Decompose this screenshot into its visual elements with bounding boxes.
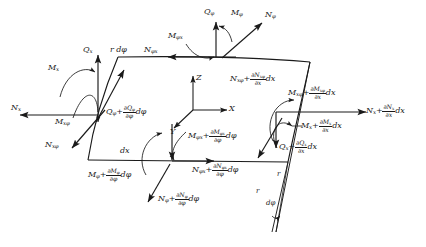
label-axis-y: Y [170,128,175,136]
label-n-phi-incremented: Nφ+∂Nφ∂φdφ [158,192,199,206]
label-q-x: Qx [83,46,92,55]
label-radius-2: r [277,171,280,178]
label-m-x-incremented: Mx+∂Mx∂xdx [301,119,342,133]
moment-arc-m-phi-inc [142,133,162,175]
axis-y [174,110,193,128]
label-m-phi: Mφ [231,9,243,18]
moment-arc-m-phix-inc [173,132,186,160]
coordinate-axes [174,76,227,128]
label-m-phix-incremented: Mφx+∂Mφx∂φdφ [188,129,236,143]
left-face-resultants [20,55,124,148]
label-n-xphi-incremented: Nxφ+∂Nxφ∂xdx [230,72,275,86]
label-n-x-incremented: Nx+∂Nx∂xdx [366,104,405,118]
label-axis-x: X [229,105,235,113]
label-m-phi-incremented: Mφ+∂Mφ∂φdφ [88,168,131,182]
label-axial-length: dx [120,147,129,155]
label-q-x-incremented: Qx+∂Qx∂xdx [279,140,317,154]
label-subtended-angle: dφ [266,200,275,207]
moment-arc-m-phi [219,26,232,42]
label-n-xphi: Nxφ [45,141,59,150]
label-q-phi: Qφ [204,8,214,17]
moment-arc-m-x [60,70,95,97]
label-n-phix: Nφx [144,46,158,55]
label-n-phix-incremented: Nφx+∂Nφx∂φdφ [192,163,238,177]
label-radius-1: r [256,188,259,195]
moment-arc-m-phix [186,44,214,58]
label-n-phi: Nφ [265,11,276,20]
arrow-n-phi [222,23,262,58]
label-n-x: Nx [11,104,21,113]
moment-arc-m-xphi [73,95,98,122]
label-m-xphi: Mxφ [55,118,70,127]
label-m-x: Mx [48,64,59,73]
label-m-phix: Mφx [168,32,183,41]
label-m-xphi-incremented: Mxφ+∂Mxφ∂xdx [288,86,335,100]
arrow-n-xphi [72,110,105,148]
label-q-phi-incremented: Qφ+∂Qφ∂φdφ [106,105,146,119]
label-axis-z: Z [196,74,201,82]
label-arc-length: r dφ [110,46,127,54]
shell-element-figure: Qφ Mφ Nφ Mφx Nφx Qx Mx Nx Mxφ Nxφ r dφ d… [0,0,426,247]
